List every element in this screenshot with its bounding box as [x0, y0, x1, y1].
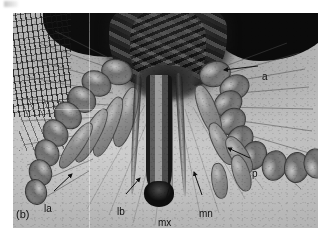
- panel-id-label: (b): [16, 209, 29, 220]
- leader-line-mx: [164, 186, 170, 206]
- leader-line-a: [224, 66, 258, 70]
- label-mx: mx: [158, 218, 171, 228]
- label-a: a: [262, 72, 268, 82]
- label-mn: mn: [199, 209, 213, 219]
- micrograph-image: a p la lb mx mn (b): [13, 13, 318, 228]
- leader-line-p: [228, 148, 250, 158]
- leader-line-mn: [194, 172, 202, 195]
- leader-line-lb: [126, 178, 140, 194]
- leader-line-la: [54, 174, 72, 191]
- annotation-leaders: [13, 13, 318, 228]
- label-p: p: [252, 169, 258, 179]
- page-artifact: [4, 1, 18, 7]
- label-la: la: [44, 204, 52, 214]
- figure-panel: a p la lb mx mn (b): [0, 0, 326, 238]
- label-lb: lb: [117, 207, 125, 217]
